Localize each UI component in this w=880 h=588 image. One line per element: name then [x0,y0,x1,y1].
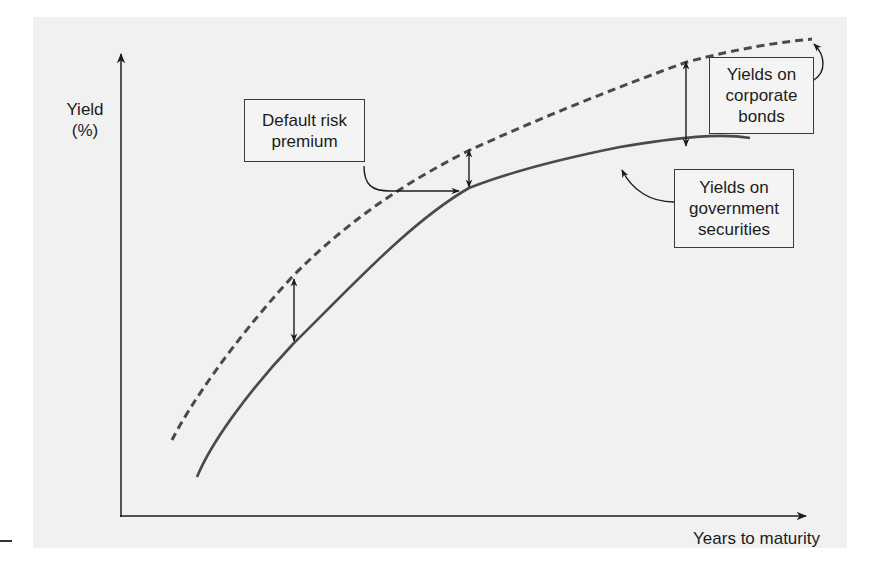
government-line1: Yields on [699,177,768,198]
corporate-line1: Yields on [727,64,796,85]
corporate-bonds-callout: Yields on corporate bonds [709,57,814,134]
government-leader-arrow [622,170,674,202]
default-risk-premium-callout: Default risk premium [244,99,365,162]
government-line2: government [689,198,779,219]
government-line3: securities [698,219,770,240]
y-axis-label-line2: (%) [60,120,110,141]
x-axis-label: Years to maturity [640,528,820,549]
corporate-line2: corporate [726,85,798,106]
y-axis-label-line1: Yield [60,99,110,120]
government-yield-curve [197,136,750,477]
default-risk-leader-arrow [364,166,459,191]
y-axis-label: Yield (%) [60,99,110,141]
default-risk-line2: premium [271,131,337,152]
government-securities-callout: Yields on government securities [674,169,794,248]
corporate-line3: bonds [738,106,784,127]
corporate-leader-arrow [814,44,823,80]
default-risk-line1: Default risk [262,110,347,131]
